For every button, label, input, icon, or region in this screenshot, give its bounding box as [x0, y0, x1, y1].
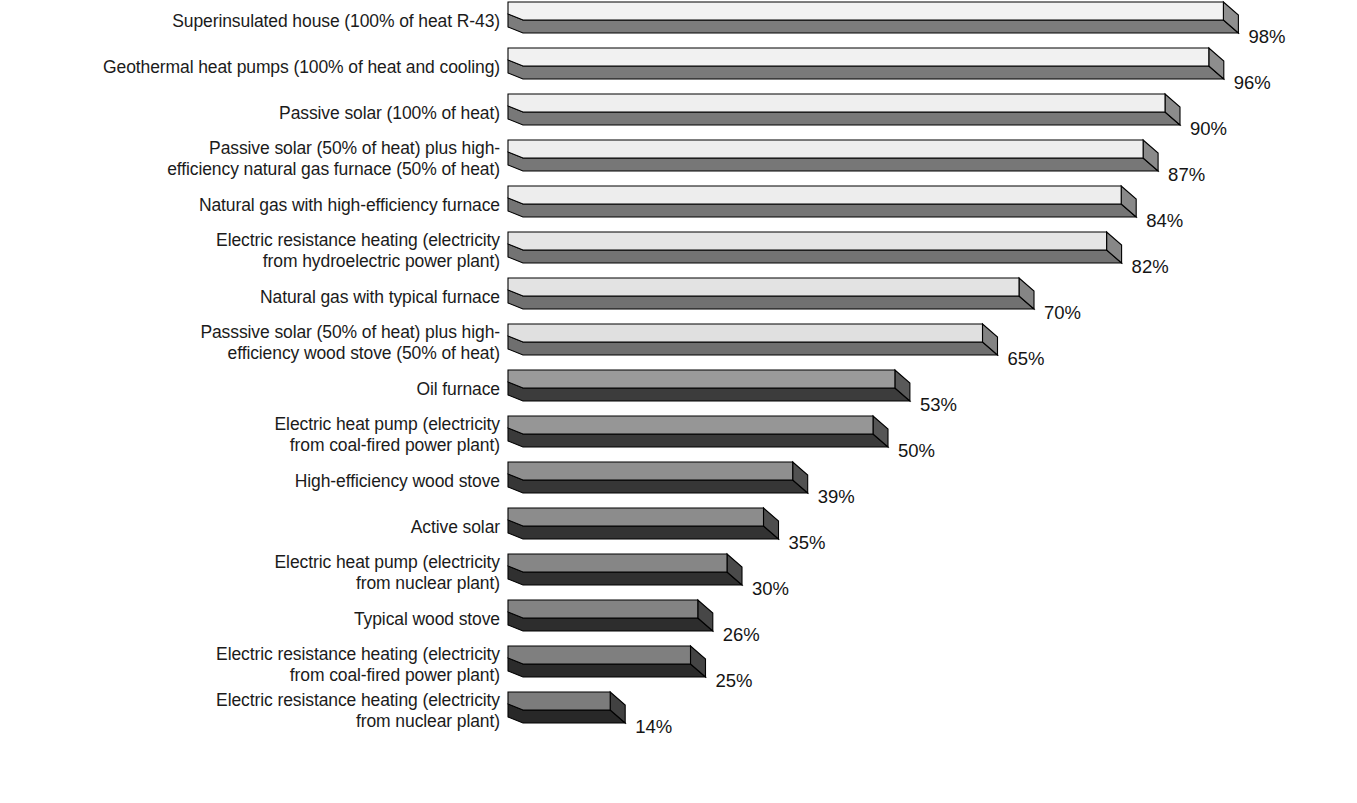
- bar: [508, 48, 1230, 90]
- bar: [508, 370, 916, 412]
- chart-row: Active solar35%: [0, 506, 1357, 552]
- bar-value-label: 90%: [1190, 119, 1227, 139]
- bar: [508, 554, 748, 596]
- bar-value-label: 30%: [752, 579, 789, 599]
- bar-top-face: [508, 692, 610, 710]
- bar-top-face: [508, 416, 873, 434]
- category-label: Passive solar (100% of heat): [0, 103, 500, 124]
- bar-value-label: 50%: [898, 441, 935, 461]
- bar: [508, 324, 1004, 366]
- chart-row: Superinsulated house (100% of heat R-43)…: [0, 0, 1357, 46]
- bar: [508, 94, 1186, 136]
- chart-row: Electric heat pump (electricity from nuc…: [0, 552, 1357, 598]
- bar: [508, 2, 1244, 44]
- chart-row: Passive solar (100% of heat)90%: [0, 92, 1357, 138]
- bar-value-label: 84%: [1146, 211, 1183, 231]
- bar-value-label: 25%: [716, 671, 753, 691]
- bar-value-label: 87%: [1168, 165, 1205, 185]
- bar-top-face: [508, 278, 1019, 296]
- bar-top-face: [508, 462, 793, 480]
- category-label: Superinsulated house (100% of heat R-43): [0, 11, 500, 32]
- bar-value-label: 65%: [1008, 349, 1045, 369]
- bar: [508, 600, 719, 642]
- chart-row: Electric resistance heating (electricity…: [0, 230, 1357, 276]
- category-label: Passive solar (50% of heat) plus high- e…: [0, 138, 500, 179]
- category-label: Geothermal heat pumps (100% of heat and …: [0, 57, 500, 78]
- chart-row: High-efficiency wood stove39%: [0, 460, 1357, 506]
- bar: [508, 692, 631, 734]
- bar-value-label: 96%: [1234, 73, 1271, 93]
- chart-row: Electric resistance heating (electricity…: [0, 690, 1357, 736]
- bar: [508, 232, 1128, 274]
- bar: [508, 646, 712, 688]
- bar: [508, 278, 1040, 320]
- bar-value-label: 26%: [723, 625, 760, 645]
- bar-value-label: 14%: [635, 717, 672, 737]
- chart-row: Electric heat pump (electricity from coa…: [0, 414, 1357, 460]
- chart-row: Natural gas with typical furnace70%: [0, 276, 1357, 322]
- bar-top-face: [508, 48, 1209, 66]
- bar: [508, 416, 894, 458]
- bar: [508, 508, 785, 550]
- bar-top-face: [508, 370, 895, 388]
- chart-row: Passive solar (50% of heat) plus high- e…: [0, 138, 1357, 184]
- bar-value-label: 53%: [920, 395, 957, 415]
- category-label: Natural gas with high-efficiency furnace: [0, 195, 500, 216]
- bar-top-face: [508, 140, 1143, 158]
- bar-top-face: [508, 646, 691, 664]
- chart-row: Oil furnace53%: [0, 368, 1357, 414]
- bar-top-face: [508, 324, 983, 342]
- bar-top-face: [508, 600, 698, 618]
- bar-value-label: 70%: [1044, 303, 1081, 323]
- category-label: Passsive solar (50% of heat) plus high- …: [0, 322, 500, 363]
- category-label: Typical wood stove: [0, 609, 500, 630]
- bar: [508, 462, 814, 504]
- bar: [508, 186, 1142, 228]
- category-label: High-efficiency wood stove: [0, 471, 500, 492]
- chart-row: Passsive solar (50% of heat) plus high- …: [0, 322, 1357, 368]
- chart-row: Natural gas with high-efficiency furnace…: [0, 184, 1357, 230]
- category-label: Oil furnace: [0, 379, 500, 400]
- bar-top-face: [508, 508, 764, 526]
- category-label: Electric heat pump (electricity from nuc…: [0, 552, 500, 593]
- bar-chart: Superinsulated house (100% of heat R-43)…: [0, 0, 1357, 803]
- category-label: Active solar: [0, 517, 500, 538]
- category-label: Electric heat pump (electricity from coa…: [0, 414, 500, 455]
- bar-top-face: [508, 232, 1107, 250]
- category-label: Electric resistance heating (electricity…: [0, 230, 500, 271]
- bar-top-face: [508, 94, 1165, 112]
- chart-row: Electric resistance heating (electricity…: [0, 644, 1357, 690]
- bar-top-face: [508, 186, 1121, 204]
- bar-value-label: 82%: [1132, 257, 1169, 277]
- chart-row: Typical wood stove26%: [0, 598, 1357, 644]
- bar-value-label: 35%: [789, 533, 826, 553]
- bar-value-label: 39%: [818, 487, 855, 507]
- category-label: Electric resistance heating (electricity…: [0, 690, 500, 731]
- bar-value-label: 98%: [1248, 27, 1285, 47]
- bar-top-face: [508, 554, 727, 572]
- chart-row: Geothermal heat pumps (100% of heat and …: [0, 46, 1357, 92]
- category-label: Electric resistance heating (electricity…: [0, 644, 500, 685]
- bar-top-face: [508, 2, 1223, 20]
- bar: [508, 140, 1164, 182]
- category-label: Natural gas with typical furnace: [0, 287, 500, 308]
